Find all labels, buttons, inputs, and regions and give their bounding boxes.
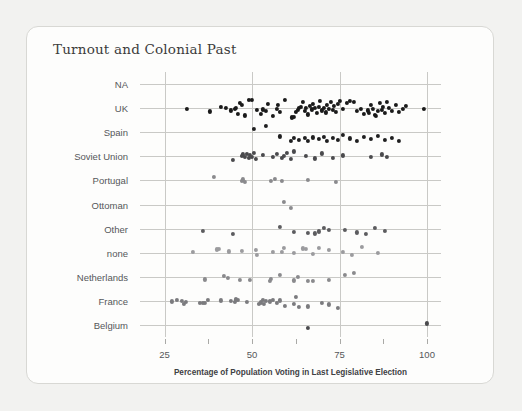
data-point: [330, 136, 334, 140]
data-point: [269, 277, 273, 281]
data-point: [376, 134, 380, 138]
data-point: [325, 139, 329, 143]
data-point: [280, 179, 284, 183]
data-point: [334, 180, 338, 184]
data-point: [253, 157, 257, 161]
data-point: [397, 138, 401, 142]
data-point: [355, 139, 359, 143]
data-point: [320, 151, 324, 155]
data-point: [364, 232, 368, 236]
data-point: [306, 304, 310, 308]
data-point: [311, 135, 315, 139]
data-point: [350, 253, 354, 257]
data-point: [243, 113, 247, 117]
data-point: [327, 278, 331, 282]
data-point: [318, 99, 322, 103]
data-point: [304, 247, 308, 251]
data-point: [306, 231, 310, 235]
data-point: [358, 107, 362, 111]
data-point: [362, 112, 366, 116]
gridline-horizontal: [140, 229, 441, 230]
data-point: [292, 149, 296, 153]
y-axis-label-soviet-union: Soviet Union: [27, 151, 128, 162]
data-point: [203, 277, 207, 281]
data-point: [276, 102, 280, 106]
data-point: [236, 112, 240, 116]
x-axis-tick: [296, 339, 297, 344]
data-point: [327, 302, 331, 306]
data-point: [264, 124, 268, 128]
data-point: [316, 246, 320, 250]
data-point: [330, 155, 334, 159]
y-axis-label-belgium: Belgium: [27, 320, 128, 331]
x-axis-tick: [252, 339, 253, 344]
data-point: [393, 102, 397, 106]
y-axis-label-portugal: Portugal: [27, 175, 128, 186]
data-point: [183, 300, 187, 304]
data-point: [385, 155, 389, 159]
data-point: [288, 139, 292, 143]
gridline-vertical: [252, 72, 253, 337]
data-point: [355, 230, 359, 234]
data-point: [255, 252, 259, 256]
gridline-horizontal: [140, 325, 441, 326]
data-point: [323, 110, 327, 114]
data-point: [397, 110, 401, 114]
data-point: [266, 102, 270, 106]
data-point: [211, 175, 215, 179]
data-point: [374, 114, 378, 118]
gridline-horizontal: [140, 180, 441, 181]
data-point: [369, 155, 373, 159]
data-point: [297, 305, 301, 309]
data-point: [201, 229, 205, 233]
data-point: [316, 229, 320, 233]
data-point: [234, 106, 238, 110]
data-point: [294, 295, 298, 299]
y-axis-label-spain: Spain: [27, 127, 128, 138]
data-point: [360, 245, 364, 249]
data-point: [369, 137, 373, 141]
data-point: [385, 99, 389, 103]
data-point: [327, 228, 331, 232]
data-point: [259, 112, 263, 116]
scatter-plot-panel: NAUKSpainSoviet UnionPortugalOttomanOthe…: [27, 27, 495, 385]
data-point: [231, 232, 235, 236]
data-point: [390, 136, 394, 140]
chart-card: Turnout and Colonial Past NAUKSpainSovie…: [26, 26, 494, 384]
x-axis-tick-label: 50: [247, 349, 258, 360]
data-point: [367, 111, 371, 115]
x-axis-tick: [383, 339, 384, 344]
data-point: [271, 114, 275, 118]
data-point: [316, 137, 320, 141]
y-axis-label-netherlands: Netherlands: [27, 271, 128, 282]
data-point: [421, 107, 425, 111]
data-point: [264, 109, 268, 113]
data-point: [283, 304, 287, 308]
x-axis-tick: [165, 339, 166, 344]
x-axis-title: Percentage of Population Voting in Last …: [174, 368, 407, 377]
y-axis-label-france: France: [27, 295, 128, 306]
data-point: [311, 279, 315, 283]
data-point: [217, 247, 221, 251]
data-point: [334, 110, 338, 114]
data-point: [278, 110, 282, 114]
x-axis-tick: [340, 339, 341, 344]
data-point: [362, 135, 366, 139]
data-point: [306, 279, 310, 283]
data-point: [262, 302, 266, 306]
data-point: [306, 326, 310, 330]
data-point: [224, 106, 228, 110]
data-point: [390, 109, 394, 113]
gridline-horizontal: [140, 253, 441, 254]
data-point: [341, 107, 345, 111]
data-point: [185, 107, 189, 111]
data-point: [343, 228, 347, 232]
data-point: [292, 251, 296, 255]
data-point: [238, 278, 242, 282]
data-point: [306, 112, 310, 116]
data-point: [383, 138, 387, 142]
data-point: [351, 100, 355, 104]
data-point: [252, 151, 256, 155]
data-point: [292, 230, 296, 234]
y-axis-label-ottoman: Ottoman: [27, 199, 128, 210]
